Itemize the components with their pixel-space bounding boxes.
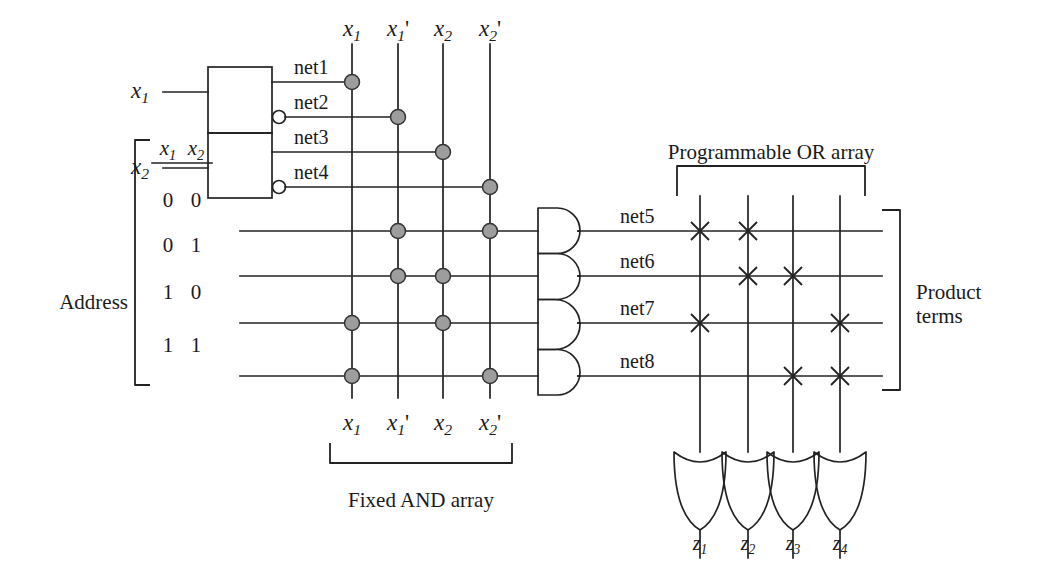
and-crosspoint-dot-01-x1p xyxy=(391,269,406,284)
net-label-net7: net7 xyxy=(620,297,654,320)
and-column-bottom-label-x2: x2 xyxy=(434,410,452,439)
programmable-or-array-bracket xyxy=(677,166,865,196)
and-connection-dot-net2-x1p xyxy=(391,110,406,125)
and-column-top-label-x2: x2 xyxy=(434,16,452,45)
or-gate-z3 xyxy=(767,452,819,530)
output-label-z2: z2 xyxy=(741,532,756,558)
diagram-canvas xyxy=(0,0,1038,561)
output-label-z4: z4 xyxy=(833,532,848,558)
address-header-x1: x1 xyxy=(160,136,176,164)
net-label-net8: net8 xyxy=(620,350,654,373)
inverter-bubble-net2 xyxy=(273,111,286,124)
input-label-x1: x1 xyxy=(131,78,149,107)
product-terms-caption: Productterms xyxy=(916,280,981,328)
address-cell-3-x2: 1 xyxy=(191,333,202,358)
output-label-z3: z3 xyxy=(786,532,801,558)
address-cell-0-x2: 0 xyxy=(191,188,202,213)
and-gate-net5 xyxy=(538,208,580,254)
net-label-net6: net6 xyxy=(620,250,654,273)
or-gate-z2 xyxy=(722,452,774,530)
input-label-x2: x2 xyxy=(131,154,149,183)
output-label-z1: z1 xyxy=(693,532,708,558)
decoder-upper-box xyxy=(208,67,272,133)
address-caption: Address xyxy=(59,290,128,315)
and-column-top-label-x1p: x1' xyxy=(387,16,409,45)
net-label-net3: net3 xyxy=(294,126,328,149)
net-label-net5: net5 xyxy=(620,205,654,228)
logic-diagram-figure: x1x2net1net2net3net4x1x1x1'x1'x2x2x2'x2'… xyxy=(0,0,1038,561)
and-connection-dot-net1-x1 xyxy=(345,75,360,90)
or-gate-z1 xyxy=(674,452,726,530)
and-crosspoint-dot-00-x2p xyxy=(483,224,498,239)
and-crosspoint-dot-11-x1 xyxy=(345,369,360,384)
and-gate-net6 xyxy=(538,254,580,300)
and-crosspoint-dot-11-x2p xyxy=(483,369,498,384)
and-crosspoint-dot-10-x1 xyxy=(345,316,360,331)
address-cell-1-x1: 0 xyxy=(163,233,174,258)
address-cell-0-x1: 0 xyxy=(163,188,174,213)
decoder-lower-box xyxy=(208,133,272,198)
and-column-bottom-label-x1: x1 xyxy=(343,410,361,439)
and-crosspoint-dot-10-x2 xyxy=(436,316,451,331)
product-terms-bracket xyxy=(882,210,900,390)
net-label-net2: net2 xyxy=(294,91,328,114)
programmable-or-array-caption: Programmable OR array xyxy=(668,140,874,165)
and-connection-dot-net4-x2p xyxy=(483,180,498,195)
address-cell-3-x1: 1 xyxy=(163,333,174,358)
address-header-x2: x2 xyxy=(188,136,204,164)
or-gate-z4 xyxy=(814,452,866,530)
and-gate-net8 xyxy=(538,350,580,396)
fixed-and-array-caption: Fixed AND array xyxy=(348,488,494,513)
inverter-bubble-net4 xyxy=(273,181,286,194)
and-crosspoint-dot-00-x1p xyxy=(391,224,406,239)
and-column-top-label-x2p: x2' xyxy=(479,16,501,45)
address-cell-2-x1: 1 xyxy=(163,280,174,305)
net-label-net1: net1 xyxy=(294,56,328,79)
and-column-bottom-label-x1p: x1' xyxy=(387,410,409,439)
and-gate-net7 xyxy=(538,300,580,350)
and-column-bottom-label-x2p: x2' xyxy=(479,410,501,439)
net-label-net4: net4 xyxy=(294,161,328,184)
address-cell-2-x2: 0 xyxy=(191,280,202,305)
fixed-and-array-bracket xyxy=(330,443,512,463)
and-connection-dot-net3-x2 xyxy=(436,145,451,160)
and-crosspoint-dot-01-x2 xyxy=(436,269,451,284)
and-column-top-label-x1: x1 xyxy=(343,16,361,45)
address-cell-1-x2: 1 xyxy=(191,233,202,258)
